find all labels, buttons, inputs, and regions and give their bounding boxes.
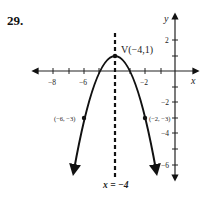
point-right: [143, 116, 147, 120]
y-tick-label: −4: [161, 129, 169, 138]
point-left: [82, 116, 86, 120]
y-tick-label: 2: [165, 36, 169, 45]
point-left-label: (−6, −3): [54, 115, 75, 123]
vertex-label: V(−4,1): [121, 44, 153, 56]
point-right-label: (−2, −3): [149, 115, 170, 123]
x-tick-label: −6: [79, 78, 87, 87]
axis-of-symmetry-label: x = −4: [102, 180, 129, 190]
y-axis-label: y: [163, 13, 169, 24]
y-axis: [172, 16, 178, 178]
x-axis-label: x: [190, 75, 196, 86]
parabola-graph: y x −8 −6 −2 2 −2 −4 −6 V(−4,1) (−6, −3)…: [0, 0, 207, 201]
vertex-point: [113, 54, 117, 58]
y-tick-label: −6: [161, 161, 169, 170]
x-tick-label: −2: [140, 78, 148, 87]
y-tick-label: −2: [161, 98, 169, 107]
x-tick-label: −8: [48, 78, 56, 87]
